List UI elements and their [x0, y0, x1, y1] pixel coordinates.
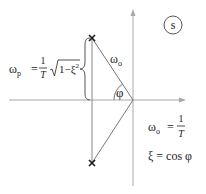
- omega-p-subscript: p: [17, 69, 21, 78]
- svg-text:ωo: ωo: [148, 120, 160, 136]
- phi-label: φ: [116, 85, 124, 100]
- s-plane-diagram: s ωo φ ωp = 1 T 1−ξ2 ωo = 1 T ξ = cos φ: [0, 0, 206, 194]
- imaginary-axis-arrow-icon: [131, 9, 136, 16]
- lower-hypotenuse: [92, 100, 133, 163]
- svg-text:ωp: ωp: [9, 62, 21, 78]
- omega-o-definition: ωo = 1 T: [148, 113, 185, 139]
- s-plane-label: s: [164, 16, 182, 34]
- omega-p-formula: ωp = 1 T 1−ξ2: [9, 55, 80, 80]
- svg-text:1−ξ2: 1−ξ2: [59, 62, 80, 76]
- omega-p-symbol: ω: [9, 62, 17, 76]
- upper-hypotenuse: [92, 38, 133, 100]
- omega-o-def-numerator: 1: [179, 113, 184, 124]
- sqrt-exponent: 2: [76, 62, 80, 70]
- omega-o-def-equals: =: [167, 120, 174, 134]
- omega-o-def-subscript: o: [156, 127, 160, 136]
- omega-o-symbol: ω: [110, 52, 118, 66]
- omega-p-numerator: 1: [41, 55, 46, 66]
- real-axis-arrow-icon: [179, 98, 186, 103]
- omega-p-denominator: T: [40, 69, 47, 80]
- omega-o-def-symbol: ω: [148, 120, 156, 134]
- omega-p-equals: =: [31, 62, 38, 76]
- omega-p-brace: [80, 38, 90, 100]
- hypotenuse-label: ωo: [110, 52, 122, 68]
- sqrt-body: 1−ξ: [59, 63, 76, 76]
- svg-text:ωo: ωo: [110, 52, 122, 68]
- xi-definition: ξ = cos φ: [148, 149, 192, 163]
- omega-o-def-denominator: T: [178, 128, 185, 139]
- s-plane-letter: s: [171, 18, 176, 32]
- omega-o-subscript: o: [118, 59, 122, 68]
